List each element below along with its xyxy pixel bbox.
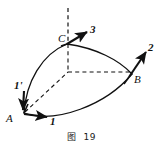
vector-b-stub [124, 77, 129, 84]
vector-label-2: 2 [148, 42, 154, 53]
vector-3-arrow [67, 32, 87, 44]
caption-number: 19 [84, 132, 96, 142]
figure-19: A B C 1 1' 2 3 图19 [0, 0, 163, 154]
arc-c-to-b [67, 44, 132, 74]
dashed-edge-a-origin [25, 72, 68, 112]
vector-1prime-arrow [23, 91, 24, 110]
point-label-b: B [134, 74, 141, 85]
caption-label: 图 [67, 132, 77, 142]
vector-label-1: 1 [50, 116, 56, 127]
vector-label-3: 3 [90, 24, 96, 35]
vector-c-stub [61, 44, 67, 46]
arc-a-to-b [24, 74, 132, 116]
figure-caption: 图19 [0, 133, 163, 142]
point-label-c: C [58, 33, 65, 44]
arc-a-to-c [24, 44, 67, 113]
vector-1-arrow [24, 114, 47, 117]
point-label-a: A [6, 113, 13, 124]
vector-label-1-prime: 1' [14, 80, 23, 91]
